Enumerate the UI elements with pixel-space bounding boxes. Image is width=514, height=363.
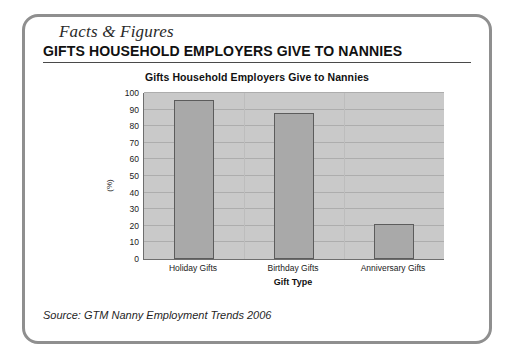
heading-divider bbox=[43, 62, 471, 63]
y-axis-tick-label: 90 bbox=[130, 105, 139, 114]
page-title: GIFTS HOUSEHOLD EMPLOYERS GIVE TO NANNIE… bbox=[43, 43, 458, 59]
x-axis-tick-label: Birthday Gifts bbox=[267, 263, 318, 273]
y-axis-title: (%) bbox=[105, 179, 114, 191]
y-axis-tick-label: 60 bbox=[130, 155, 139, 164]
category-separator bbox=[244, 93, 245, 259]
facts-figures-panel: Facts & Figures GIFTS HOUSEHOLD EMPLOYER… bbox=[22, 14, 492, 344]
bar bbox=[374, 224, 414, 259]
bar-chart: Gifts Household Employers Give to Nannie… bbox=[43, 67, 471, 299]
x-axis-title: Gift Type bbox=[143, 277, 443, 287]
gridline bbox=[144, 92, 444, 93]
plot-wrapper: (%) 1009080706050403020100 Holiday Gifts… bbox=[43, 93, 471, 289]
y-axis-tick-label: 80 bbox=[130, 122, 139, 131]
y-axis-tick-labels: 1009080706050403020100 bbox=[115, 93, 139, 259]
bar bbox=[174, 100, 214, 259]
y-axis-tick-label: 70 bbox=[130, 139, 139, 148]
panel-heading: GIFTS HOUSEHOLD EMPLOYERS GIVE TO NANNIE… bbox=[43, 43, 471, 63]
x-axis-tick-labels: Holiday GiftsBirthday GiftsAnniversary G… bbox=[143, 263, 443, 277]
source-caption: Source: GTM Nanny Employment Trends 2006 bbox=[43, 309, 271, 321]
plot-area bbox=[143, 93, 444, 260]
y-axis-tick-label: 10 bbox=[130, 238, 139, 247]
y-axis-tick-label: 0 bbox=[134, 255, 139, 264]
y-axis-tick-label: 50 bbox=[130, 172, 139, 181]
y-axis-tick-label: 20 bbox=[130, 222, 139, 231]
y-axis-tick-label: 100 bbox=[125, 89, 139, 98]
panel-tab: Facts & Figures bbox=[55, 21, 187, 43]
chart-title: Gifts Household Employers Give to Nannie… bbox=[43, 71, 471, 83]
panel-tab-label: Facts & Figures bbox=[59, 22, 181, 42]
x-axis-tick-label: Anniversary Gifts bbox=[361, 263, 426, 273]
bar bbox=[274, 113, 314, 259]
y-axis-tick-label: 30 bbox=[130, 205, 139, 214]
category-separator bbox=[344, 93, 345, 259]
x-axis-tick-label: Holiday Gifts bbox=[169, 263, 217, 273]
y-axis-tick-label: 40 bbox=[130, 188, 139, 197]
